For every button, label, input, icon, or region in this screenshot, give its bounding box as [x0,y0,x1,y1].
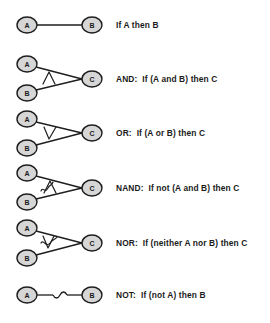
svg-text:C: C [89,130,94,137]
node-a: A [17,220,37,236]
logic-diagram: A B A B C A [0,0,270,323]
edge-b-c [36,133,82,145]
svg-text:A: A [24,61,29,68]
edge-a-c [36,122,82,133]
node-a: A [17,287,37,303]
node-c: C [82,180,102,196]
svg-text:A: A [24,116,29,123]
label-and: AND: If (A and B) then C [116,73,217,85]
svg-text:C: C [89,240,94,247]
node-c: C [82,71,102,87]
svg-text:B: B [24,145,29,152]
nor-symbol-icon [41,236,57,248]
label-nand: NAND: If not (A and B) then C [116,182,239,194]
nand-symbol-icon [41,181,56,193]
label-nor: NOR: If (neither A nor B) then C [116,237,247,249]
svg-text:B: B [89,22,94,29]
edge-a-c [36,67,82,79]
svg-text:C: C [89,185,94,192]
svg-text:C: C [89,76,94,83]
node-b: B [17,85,37,101]
node-a: A [17,56,37,72]
node-b: B [17,140,37,156]
svg-text:A: A [24,170,29,177]
svg-text:A: A [24,22,29,29]
svg-text:B: B [24,255,29,262]
node-b: B [82,287,102,303]
tilde-icon [53,292,67,298]
node-c: C [82,125,102,141]
svg-text:A: A [24,225,29,232]
row-nor: A B C [17,220,102,266]
node-b: B [17,194,37,210]
row-implication: A B [17,17,102,33]
label-or: OR: If (A or B) then C [116,127,205,139]
or-vee-icon [44,127,56,139]
row-not: A B [17,287,102,303]
label-not: NOT: If (not A) then B [116,289,206,301]
node-a: A [17,165,37,181]
node-a: A [17,17,37,33]
node-a: A [17,111,37,127]
row-nand: A B C [17,165,102,210]
and-wedge-icon [43,72,55,84]
node-b: B [82,17,102,33]
row-and: A B C [17,56,102,101]
svg-text:A: A [24,292,29,299]
svg-text:B: B [24,90,29,97]
svg-text:B: B [24,199,29,206]
label-implication: If A then B [116,19,159,31]
edge-a-c [36,176,82,188]
node-b: B [17,250,37,266]
node-c: C [82,235,102,251]
svg-text:B: B [89,292,94,299]
row-or: A B C [17,111,102,156]
edge-b-c [36,243,82,255]
